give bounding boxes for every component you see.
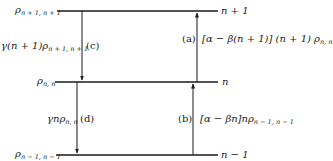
- state-label-n: n: [222, 77, 228, 87]
- transition-b-rate: [α − βn]nρn − 1, n − 1: [200, 114, 294, 126]
- rho-label-n-minus-1: ρn − 1, n − 1: [15, 149, 61, 161]
- rho-subscript: n + 1, n + 1: [21, 9, 61, 17]
- transition-a-rate: [α − β(n + 1)] (n + 1) ρn, n: [202, 34, 333, 46]
- rho-label-n: ρn, n: [37, 76, 55, 88]
- rate-subscript: n + 1, n + 1: [48, 45, 88, 53]
- transition-d-rate: γnρn, n: [47, 114, 78, 126]
- state-label-n-plus-1: n + 1: [221, 6, 249, 16]
- rate-subscript: n − 1, n − 1: [254, 118, 294, 126]
- rate-expression: γ(n + 1)ρ: [1, 40, 48, 51]
- transition-c-tag: (c): [86, 41, 99, 51]
- transition-d-tag: (d): [80, 114, 94, 124]
- transition-b-tag: (b): [178, 114, 192, 124]
- rate-subscript: n, n: [320, 38, 333, 46]
- rate-expression: γnρ: [47, 113, 65, 124]
- rho-subscript: n − 1, n − 1: [21, 153, 61, 161]
- transition-c-rate: γ(n + 1)ρn + 1, n + 1: [1, 41, 88, 53]
- state-label-n-minus-1: n − 1: [221, 150, 249, 160]
- rate-subscript: n, n: [65, 118, 78, 126]
- rate-expression: [α − β(n + 1)] (n + 1) ρ: [202, 33, 320, 44]
- transition-a-tag: (a): [182, 34, 196, 44]
- rho-subscript: n, n: [43, 80, 56, 88]
- rho-label-n-plus-1: ρn + 1, n + 1: [15, 5, 61, 17]
- rate-expression: [α − βn]nρ: [200, 113, 254, 124]
